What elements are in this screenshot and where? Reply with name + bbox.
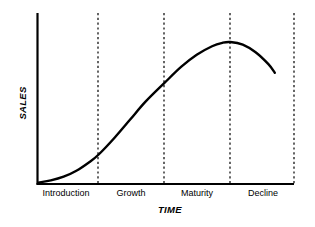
stage-label-introduction: Introduction: [42, 188, 89, 198]
x-axis-title: TIME: [158, 204, 182, 215]
stage-label-decline: Decline: [248, 188, 278, 198]
stage-label-growth: Growth: [116, 188, 145, 198]
product-life-cycle-chart: SALES TIME Introduction Growth Maturity …: [0, 0, 315, 227]
y-axis-title: SALES: [17, 86, 28, 119]
stage-label-maturity: Maturity: [181, 188, 213, 198]
sales-curve-line: [39, 42, 275, 183]
